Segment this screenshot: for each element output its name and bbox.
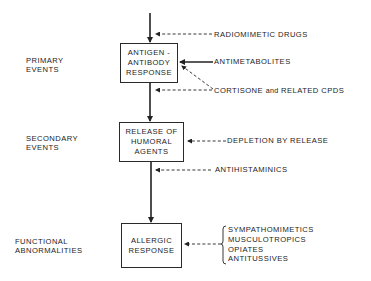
functional-drugs-list: SYMPATHOMIMETICS MUSCULOTROPICS OPIATES … [228,225,314,264]
label-antimetabolites: ANTIMETABOLITES [214,57,291,66]
list-item: ANTITUSSIVES [228,254,314,264]
label-antihistaminics: ANTIHISTAMINICS [215,165,287,174]
box-antigen-antibody-response: ANTIGEN - ANTIBODY RESPONSE [120,43,178,83]
stage-label-primary: PRIMARY EVENTS [26,56,64,74]
stage-label-functional: FUNCTIONAL ABNORMALITIES [15,237,82,255]
list-item: SYMPATHOMIMETICS [228,225,314,235]
label-depletion-by-release: DEPLETION BY RELEASE [227,136,328,145]
label-cortisone-related-cpds: CORTISONE and RELATED CPDS [214,86,344,95]
box-allergic-response: ALLERGIC RESPONSE [121,223,182,268]
box-release-of-humoral-agents: RELEASE OF HUMORAL AGENTS [119,122,184,162]
stage-label-secondary: SECONDARY EVENTS [26,134,78,152]
functional-drugs-brace [221,226,226,264]
allergy-pathway-diagram: PRIMARY EVENTS SECONDARY EVENTS FUNCTION… [0,0,371,281]
label-radiomimetic-drugs: RADIOMIMETIC DRUGS [214,30,308,39]
cortisone-arrow-box [182,66,213,89]
list-item: MUSCULOTROPICS [228,235,314,245]
list-item: OPIATES [228,245,314,255]
